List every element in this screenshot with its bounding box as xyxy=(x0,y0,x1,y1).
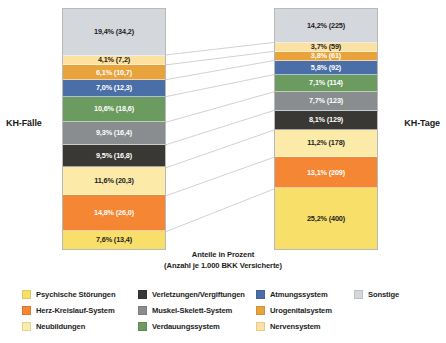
axis-label-kh-faelle: KH-Fälle xyxy=(6,118,42,128)
chart-area: KH-Fälle KH-Tage 19,4% (34,2)4,1% (7,2)6… xyxy=(0,0,446,283)
bar-segment: 3,8% (61) xyxy=(275,52,377,61)
bar-segment: 14,8% (26,0) xyxy=(63,195,165,231)
legend-swatch-icon xyxy=(256,290,265,299)
legend-item[interactable]: Verdauungssystem xyxy=(138,320,256,333)
bar-segment: 9,3% (16,4) xyxy=(63,122,165,144)
legend-swatch-icon xyxy=(22,306,31,315)
legend-label: Psychische Störungen xyxy=(36,290,115,299)
legend-item[interactable]: Muskel-Skelett-System xyxy=(138,304,256,317)
bar-segment-label: 3,7% (59) xyxy=(311,43,341,50)
legend-label: Verdauungssystem xyxy=(152,322,220,331)
legend-item[interactable]: Psychische Störungen xyxy=(22,288,138,301)
bar-segment: 25,2% (400) xyxy=(275,188,377,249)
legend-item[interactable]: Sonstige xyxy=(354,288,434,301)
bar-segment: 7,6% (13,4) xyxy=(63,231,165,249)
bar-segment-label: 13,1% (209) xyxy=(307,169,345,176)
bar-segment: 6,1% (10,7) xyxy=(63,65,165,80)
legend-item[interactable]: Urogenitalsystem xyxy=(256,304,354,317)
legend-column: Sonstige xyxy=(354,288,434,343)
legend-item[interactable]: Atmungssystem xyxy=(256,288,354,301)
bar-segment-label: 19,4% (34,2) xyxy=(94,28,134,35)
bar-segment: 11,6% (20,3) xyxy=(63,167,165,195)
legend-label: Urogenitalsystem xyxy=(270,306,332,315)
bar-segment-label: 14,2% (225) xyxy=(307,22,345,29)
legend-item[interactable]: Herz-Kreislauf-System xyxy=(22,304,138,317)
bar-segment: 10,6% (18,6) xyxy=(63,97,165,122)
bar-segment-label: 7,7% (123) xyxy=(309,97,343,104)
bar-segment: 7,1% (114) xyxy=(275,75,377,92)
bar-segment-label: 25,2% (400) xyxy=(307,215,345,222)
bar-segment-label: 7,6% (13,4) xyxy=(96,236,132,243)
legend-item[interactable]: Verletzungen/Vergiftungen xyxy=(138,288,256,301)
bar-segment-label: 7,0% (12,3) xyxy=(96,84,132,91)
bar-segment-label: 11,2% (178) xyxy=(307,139,345,146)
bar-segment-label: 3,8% (61) xyxy=(311,52,341,59)
bar-segment: 19,4% (34,2) xyxy=(63,9,165,56)
bar-segment: 5,8% (92) xyxy=(275,61,377,75)
bar-segment-label: 7,1% (114) xyxy=(309,79,343,86)
bar-segment-label: 14,8% (26,0) xyxy=(94,209,134,216)
legend-swatch-icon xyxy=(138,322,147,331)
bar-segment: 7,0% (12,3) xyxy=(63,80,165,97)
bar-segment-label: 5,8% (92) xyxy=(311,64,341,71)
bar-segment-label: 8,1% (129) xyxy=(309,116,343,123)
legend-label: Neubildungen xyxy=(36,322,85,331)
bar-segment-label: 6,1% (10,7) xyxy=(96,69,132,76)
bar-segment: 9,5% (16,8) xyxy=(63,145,165,168)
bar-segment-label: 10,6% (18,6) xyxy=(94,105,134,112)
bar-segment: 3,7% (59) xyxy=(275,43,377,52)
bar-segment: 4,1% (7,2) xyxy=(63,56,165,66)
bar-segment-label: 4,1% (7,2) xyxy=(98,56,130,63)
legend-label: Herz-Kreislauf-System xyxy=(36,306,115,315)
stacked-bar-kh-faelle: 19,4% (34,2)4,1% (7,2)6,1% (10,7)7,0% (1… xyxy=(62,8,166,250)
bar-segment: 14,2% (225) xyxy=(275,9,377,43)
chart-legend: Psychische StörungenHerz-Kreislauf-Syste… xyxy=(0,288,446,343)
legend-column: AtmungssystemUrogenitalsystemNervensyste… xyxy=(256,288,354,343)
legend-column: Verletzungen/VergiftungenMuskel-Skelett-… xyxy=(138,288,256,343)
bar-segment: 13,1% (209) xyxy=(275,157,377,188)
bar-segment-label: 9,3% (16,4) xyxy=(96,129,132,136)
legend-swatch-icon xyxy=(22,290,31,299)
legend-column: Psychische StörungenHerz-Kreislauf-Syste… xyxy=(22,288,138,343)
legend-swatch-icon xyxy=(22,322,31,331)
legend-swatch-icon xyxy=(256,322,265,331)
axis-title-line2: (Anzahl je 1.000 BKK Versicherte) xyxy=(0,260,446,271)
legend-swatch-icon xyxy=(354,290,363,299)
legend-label: Muskel-Skelett-System xyxy=(152,306,232,315)
legend-swatch-icon xyxy=(256,306,265,315)
bar-segment: 11,2% (178) xyxy=(275,130,377,157)
legend-label: Atmungssystem xyxy=(270,290,328,299)
legend-item[interactable]: Neubildungen xyxy=(22,320,138,333)
axis-label-kh-tage: KH-Tage xyxy=(404,118,440,128)
legend-swatch-icon xyxy=(138,290,147,299)
stacked-bar-kh-tage: 14,2% (225)3,7% (59)3,8% (61)5,8% (92)7,… xyxy=(274,8,378,250)
legend-item[interactable]: Nervensystem xyxy=(256,320,354,333)
axis-title: Anteile in Prozent (Anzahl je 1.000 BKK … xyxy=(0,249,446,271)
bar-segment: 7,7% (123) xyxy=(275,92,377,111)
bar-segment: 8,1% (129) xyxy=(275,111,377,130)
legend-label: Nervensystem xyxy=(270,322,320,331)
legend-label: Sonstige xyxy=(368,290,399,299)
legend-swatch-icon xyxy=(138,306,147,315)
axis-title-line1: Anteile in Prozent xyxy=(0,249,446,260)
bar-segment-label: 9,5% (16,8) xyxy=(96,152,132,159)
bar-segment-label: 11,6% (20,3) xyxy=(94,177,134,184)
legend-label: Verletzungen/Vergiftungen xyxy=(152,290,245,299)
